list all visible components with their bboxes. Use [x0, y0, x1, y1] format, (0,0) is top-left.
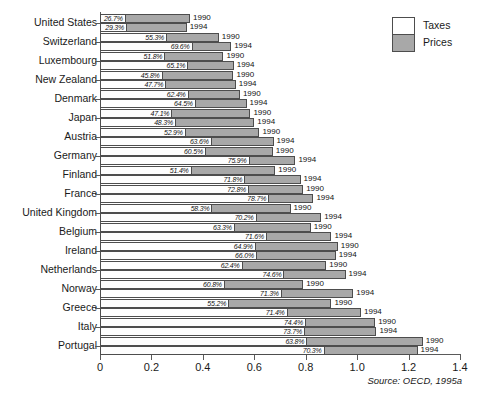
bar-segment-taxes: 48.3%: [101, 119, 175, 126]
bar-segment-prices: [324, 347, 417, 354]
category-label-ireland: Ireland: [0, 244, 97, 256]
bar-segment-taxes: 70.3%: [101, 347, 324, 354]
category-axis-labels: United StatesSwitzerlandLuxembourgNew Ze…: [0, 12, 97, 354]
category-label-greece: Greece: [0, 301, 97, 313]
bar-year-label: 1994: [234, 41, 252, 51]
bar-value-label: 64.9%: [234, 242, 253, 251]
bar-year-label: 1990: [306, 279, 324, 289]
bar-row: 71.4%1994: [100, 308, 460, 317]
x-axis-tick-label: 1.4: [452, 361, 467, 373]
bar-row: 45.8%1990: [100, 71, 460, 80]
bar-segment-taxes: 64.9%: [101, 243, 255, 250]
bar-row: 63.6%1994: [100, 137, 460, 146]
bar-segment-prices: [228, 300, 330, 307]
bar-segment-prices: [195, 100, 246, 107]
bar-row: 78.7%1994: [100, 194, 460, 203]
stacked-bar-chart: United StatesSwitzerlandLuxembourgNew Ze…: [0, 0, 480, 397]
bar-segment-taxes: 73.7%: [101, 328, 304, 335]
bar-year-label: 1994: [239, 79, 257, 89]
bar-segment-taxes: 75.9%: [101, 157, 249, 164]
bar-row: 74.6%1994: [100, 270, 460, 279]
stacked-bar: 74.6%: [100, 270, 346, 279]
stacked-bar: 71.6%: [100, 232, 331, 241]
bar-value-label: 52.9%: [164, 128, 183, 137]
bar-row: 55.2%1990: [100, 299, 460, 308]
stacked-bar: 62.4%: [100, 261, 326, 270]
bar-row: 51.8%1990: [100, 52, 460, 61]
bar-segment-prices: [244, 176, 299, 183]
bar-row: 70.2%1994: [100, 213, 460, 222]
stacked-bar: 64.5%: [100, 99, 247, 108]
bar-segment-prices: [171, 110, 249, 117]
bar-year-label: 1994: [316, 193, 334, 203]
bar-year-label: 1990: [329, 260, 347, 270]
stacked-bar: 51.4%: [100, 166, 275, 175]
category-label-switzerland: Switzerland: [0, 35, 97, 47]
stacked-bar: 69.6%: [100, 42, 231, 51]
bar-segment-taxes: 74.6%: [101, 271, 283, 278]
bar-segment-prices: [125, 15, 189, 22]
bar-segment-prices: [164, 53, 222, 60]
bar-segment-prices: [234, 224, 310, 231]
bar-segment-prices: [281, 290, 352, 297]
stacked-bar: 47.7%: [100, 80, 236, 89]
stacked-bar: 78.7%: [100, 194, 313, 203]
stacked-bar: 73.7%: [100, 327, 376, 336]
x-axis-tick-label: 0: [97, 361, 103, 373]
stacked-bar: 58.3%: [100, 204, 291, 213]
bar-value-label: 63.3%: [213, 223, 232, 232]
bar-row: 74.4%1990: [100, 318, 460, 327]
category-label-belgium: Belgium: [0, 225, 97, 237]
category-label-norway: Norway: [0, 282, 97, 294]
category-label-united-kingdom: United Kingdom: [0, 206, 97, 218]
bar-row: 73.7%1994: [100, 327, 460, 336]
bar-segment-prices: [188, 91, 239, 98]
bar-year-label: 1994: [364, 307, 382, 317]
category-label-italy: Italy: [0, 320, 97, 332]
bar-segment-prices: [255, 243, 337, 250]
bar-value-label: 62.4%: [221, 261, 240, 270]
bar-value-label: 60.8%: [203, 280, 222, 289]
bar-segment-taxes: 51.8%: [101, 53, 164, 60]
stacked-bar: 62.4%: [100, 90, 240, 99]
stacked-bar: 71.4%: [100, 308, 361, 317]
x-axis-tick: [100, 355, 101, 360]
stacked-bar: 63.6%: [100, 137, 274, 146]
bar-segment-prices: [162, 72, 233, 79]
bar-row: 62.4%1990: [100, 90, 460, 99]
legend-label-prices: Prices: [423, 34, 452, 51]
bar-year-label: 1994: [356, 288, 374, 298]
bar-segment-taxes: 63.8%: [101, 338, 306, 345]
bar-row: 66.0%1994: [100, 251, 460, 260]
bar-value-label: 69.6%: [171, 42, 190, 51]
legend-swatch-taxes: [393, 18, 414, 35]
bar-value-label: 63.8%: [285, 337, 304, 346]
bar-segment-taxes: 69.6%: [101, 43, 192, 50]
stacked-bar: 51.8%: [100, 52, 223, 61]
x-axis-tick: [306, 355, 307, 360]
bar-segment-taxes: 71.3%: [101, 290, 281, 297]
bar-value-label: 71.4%: [266, 308, 285, 317]
bar-year-label: 1994: [379, 326, 397, 336]
category-label-france: France: [0, 187, 97, 199]
bar-segment-taxes: 47.1%: [101, 110, 171, 117]
bar-segment-taxes: 71.4%: [101, 309, 287, 316]
bar-year-label: 1994: [339, 250, 357, 260]
bar-year-label: 1994: [298, 155, 316, 165]
bar-segment-prices: [266, 233, 330, 240]
stacked-bar: 72.8%: [100, 185, 303, 194]
bar-row: 62.4%1990: [100, 261, 460, 270]
category-label-germany: Germany: [0, 149, 97, 161]
x-axis-tick: [357, 355, 358, 360]
bar-value-label: 70.3%: [303, 346, 322, 355]
bar-value-label: 63.6%: [190, 137, 209, 146]
bar-segment-prices: [242, 262, 326, 269]
bar-value-label: 71.3%: [260, 289, 279, 298]
bar-year-label: 1990: [276, 146, 294, 156]
x-axis-tick-label: 0.6: [247, 361, 262, 373]
bar-year-label: 1994: [190, 22, 208, 32]
stacked-bar: 29.3%: [100, 23, 187, 32]
bar-segment-taxes: 62.4%: [101, 91, 188, 98]
bar-segment-taxes: 70.2%: [101, 214, 256, 221]
bar-segment-prices: [211, 205, 289, 212]
